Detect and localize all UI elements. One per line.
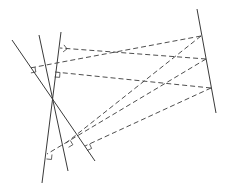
right-angle-marker — [63, 45, 67, 52]
dashed-line — [66, 36, 201, 143]
right-angle-marker — [46, 155, 51, 160]
solid-lines — [12, 9, 216, 183]
dashed-line — [55, 72, 211, 88]
right-angle-marker — [87, 144, 92, 151]
line-far-right — [197, 9, 216, 113]
dashed-line — [85, 88, 211, 146]
geometry-diagram — [0, 0, 227, 193]
dashed-perpendiculars — [30, 36, 211, 154]
dashed-line — [60, 48, 206, 59]
right-angle-marker — [69, 140, 73, 147]
